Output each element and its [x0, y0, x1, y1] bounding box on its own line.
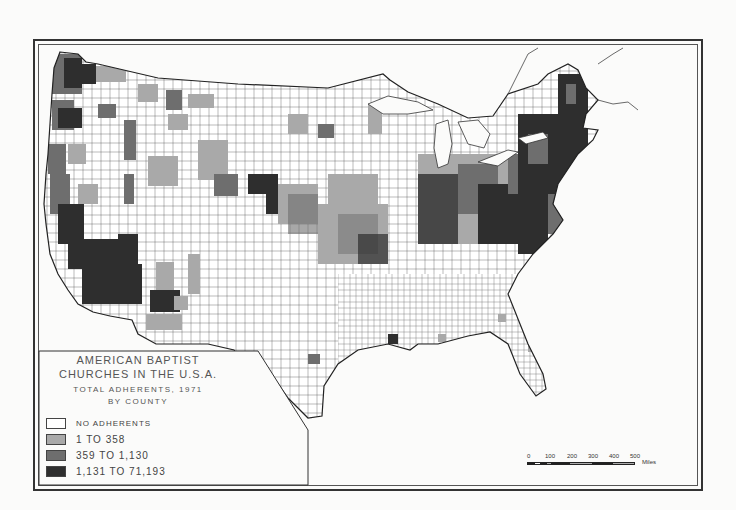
legend-title: AMERICAN BAPTIST [38, 354, 238, 366]
scale-unit: Miles [642, 459, 656, 465]
legend-item-high: 1,131 TO 71,193 [46, 464, 166, 478]
legend-swatch [46, 418, 66, 429]
scale-tick: 300 [588, 453, 598, 459]
legend-swatch [46, 466, 66, 477]
legend-subtitle-line2: BY COUNTY [38, 397, 238, 406]
legend-label: NO ADHERENTS [76, 419, 151, 428]
scale-bar: 0 100 200 300 400 500 Miles [527, 453, 687, 477]
scale-tick: 0 [527, 453, 530, 459]
scale-tick: 500 [630, 453, 640, 459]
legend: AMERICAN BAPTIST CHURCHES IN THE U.S.A. … [38, 350, 308, 486]
legend-subtitle: TOTAL ADHERENTS, 1971 [38, 385, 238, 394]
legend-item-low: 1 TO 358 [46, 432, 125, 446]
legend-swatch [46, 434, 66, 445]
legend-label: 359 TO 1,130 [76, 450, 149, 461]
legend-item-mid: 359 TO 1,130 [46, 448, 149, 462]
legend-label: 1 TO 358 [76, 434, 125, 445]
legend-label: 1,131 TO 71,193 [76, 466, 166, 477]
scale-tick: 100 [545, 453, 555, 459]
scale-tick: 400 [609, 453, 619, 459]
scale-bar-graphic [527, 462, 635, 465]
legend-item-no-adherents: NO ADHERENTS [46, 416, 151, 430]
legend-title-line2: CHURCHES IN THE U.S.A. [38, 368, 238, 380]
scale-tick: 200 [567, 453, 577, 459]
legend-swatch [46, 450, 66, 461]
